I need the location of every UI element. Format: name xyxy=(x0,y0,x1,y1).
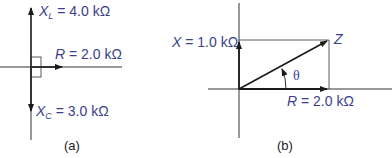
xc-label: XC = 3.0 kΩ xyxy=(36,104,109,121)
theta-arc xyxy=(282,69,286,89)
x-label-b: X = 1.0 kΩ xyxy=(172,35,238,49)
panel-b-diagram xyxy=(208,3,392,138)
z-label: Z xyxy=(334,32,343,46)
theta-label: θ xyxy=(293,69,300,83)
phasor-diagrams xyxy=(0,0,392,158)
r-label-b: R = 2.0 kΩ xyxy=(287,94,354,108)
caption-a: (a) xyxy=(64,139,80,152)
z-phasor-arrow xyxy=(239,41,327,89)
caption-b: (b) xyxy=(277,139,293,152)
xl-label: XL = 4.0 kΩ xyxy=(39,4,110,21)
r-label-a: R = 2.0 kΩ xyxy=(55,47,122,61)
